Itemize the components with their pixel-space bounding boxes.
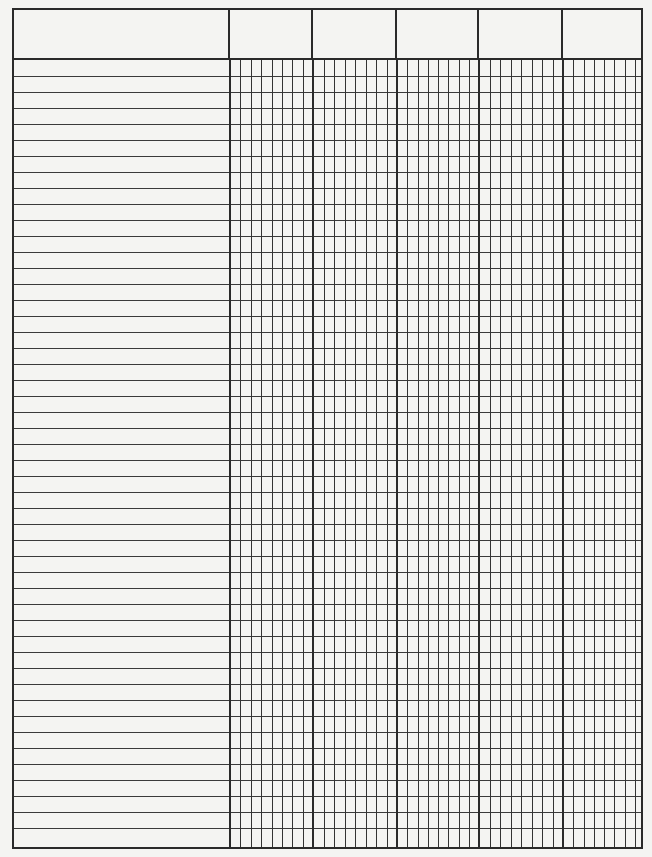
row-rule — [14, 348, 641, 349]
column-subdivision — [345, 60, 346, 847]
row-rule — [14, 188, 641, 189]
column-subdivision — [604, 60, 605, 847]
row-rule — [14, 684, 641, 685]
row-rule — [14, 732, 641, 733]
column-subdivision — [511, 60, 512, 847]
row-rule — [14, 700, 641, 701]
column-subdivision — [261, 60, 262, 847]
row-rule — [14, 412, 641, 413]
column-subdivision — [490, 60, 491, 847]
column-subdivision — [355, 60, 356, 847]
column-subdivision — [387, 60, 388, 847]
column-divider — [396, 60, 398, 847]
header-cell-description — [14, 10, 230, 58]
column-subdivision — [324, 60, 325, 847]
column-subdivision — [448, 60, 449, 847]
column-subdivision — [532, 60, 533, 847]
column-divider — [478, 60, 480, 847]
header-cell-column-1 — [230, 10, 313, 58]
row-rule — [14, 284, 641, 285]
row-rule — [14, 204, 641, 205]
row-rule — [14, 300, 641, 301]
row-rule — [14, 108, 641, 109]
row-rule — [14, 652, 641, 653]
row-rule — [14, 572, 641, 573]
row-rule — [14, 812, 641, 813]
row-rule — [14, 780, 641, 781]
column-subdivision — [553, 60, 554, 847]
column-subdivision — [303, 60, 304, 847]
row-rule — [14, 444, 641, 445]
column-divider — [312, 60, 314, 847]
row-rule — [14, 140, 641, 141]
row-rule — [14, 76, 641, 77]
column-subdivision — [500, 60, 501, 847]
row-rule — [14, 364, 641, 365]
row-rule — [14, 524, 641, 525]
row-rule — [14, 428, 641, 429]
row-rule — [14, 748, 641, 749]
row-rule — [14, 716, 641, 717]
column-subdivision — [584, 60, 585, 847]
row-rule — [14, 380, 641, 381]
row-rule — [14, 236, 641, 237]
column-subdivision — [521, 60, 522, 847]
grid-body — [14, 60, 641, 847]
ledger-sheet — [12, 8, 643, 849]
header-cell-column-2 — [313, 10, 397, 58]
header-cell-column-4 — [479, 10, 563, 58]
row-rule — [14, 92, 641, 93]
row-rule — [14, 636, 641, 637]
row-rule — [14, 492, 641, 493]
column-divider — [229, 60, 231, 847]
column-subdivision — [292, 60, 293, 847]
column-subdivision — [573, 60, 574, 847]
header-band — [14, 10, 641, 60]
column-subdivision — [272, 60, 273, 847]
header-cell-column-3 — [397, 10, 479, 58]
row-rule — [14, 316, 641, 317]
column-subdivision — [614, 60, 615, 847]
row-rule — [14, 156, 641, 157]
column-subdivision — [459, 60, 460, 847]
row-rule — [14, 604, 641, 605]
row-rule — [14, 252, 641, 253]
row-rule — [14, 796, 641, 797]
column-subdivision — [469, 60, 470, 847]
row-rule — [14, 268, 641, 269]
row-rule — [14, 620, 641, 621]
row-rule — [14, 540, 641, 541]
column-divider — [562, 60, 564, 847]
row-rule — [14, 508, 641, 509]
row-rule — [14, 396, 641, 397]
column-subdivision — [418, 60, 419, 847]
column-subdivision — [282, 60, 283, 847]
header-cell-column-5 — [563, 10, 645, 58]
column-subdivision — [438, 60, 439, 847]
row-rule — [14, 172, 641, 173]
row-rule — [14, 332, 641, 333]
column-subdivision — [635, 60, 636, 847]
column-subdivision — [251, 60, 252, 847]
row-rule — [14, 668, 641, 669]
column-subdivision — [407, 60, 408, 847]
row-rule — [14, 828, 641, 829]
column-subdivision — [542, 60, 543, 847]
column-subdivision — [376, 60, 377, 847]
column-subdivision — [334, 60, 335, 847]
row-rule — [14, 220, 641, 221]
row-rule — [14, 476, 641, 477]
row-rule — [14, 764, 641, 765]
row-rule — [14, 460, 641, 461]
column-subdivision — [240, 60, 241, 847]
column-subdivision — [594, 60, 595, 847]
row-rule — [14, 556, 641, 557]
column-subdivision — [366, 60, 367, 847]
column-subdivision — [625, 60, 626, 847]
row-rule — [14, 124, 641, 125]
column-subdivision — [428, 60, 429, 847]
row-rule — [14, 588, 641, 589]
